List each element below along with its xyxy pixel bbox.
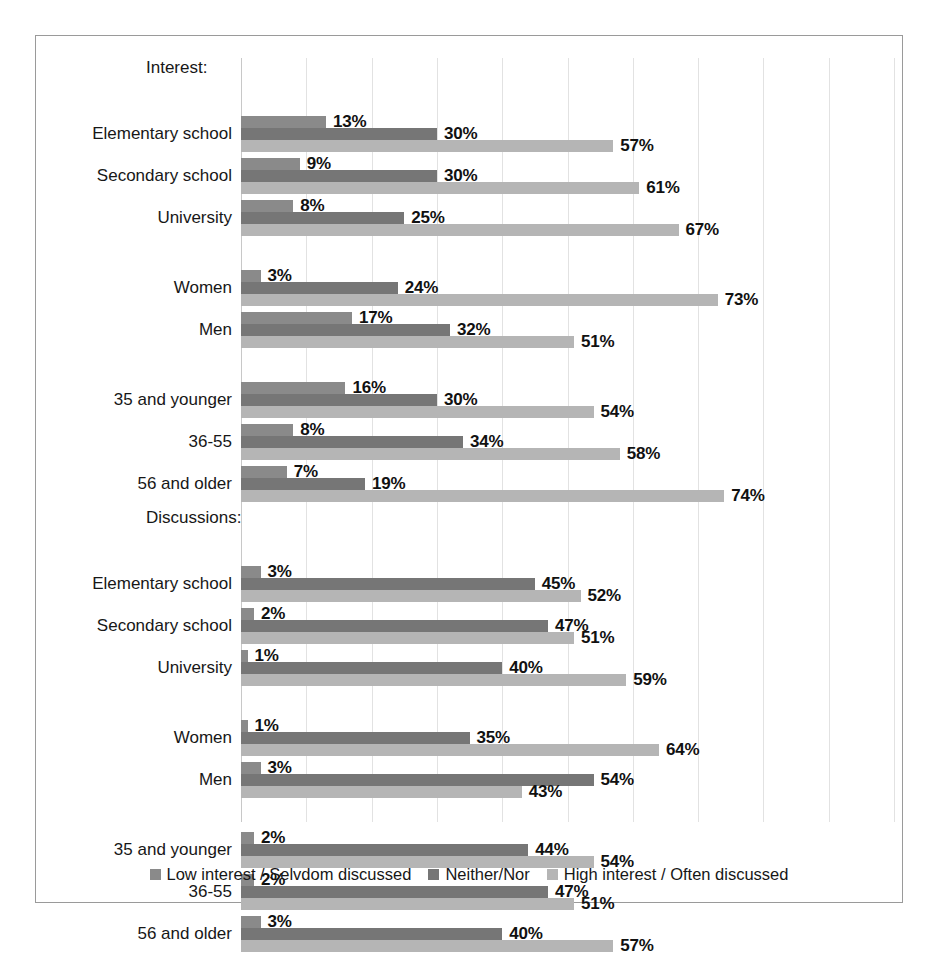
legend-swatch-icon bbox=[428, 869, 439, 880]
bar-1 bbox=[241, 844, 528, 856]
chart-row: 56 and older7%19%74% bbox=[36, 466, 902, 508]
bar-0 bbox=[241, 720, 248, 732]
bar-value-label: 51% bbox=[581, 332, 614, 352]
bar-0 bbox=[241, 382, 345, 394]
bar-2 bbox=[241, 140, 613, 152]
category-label: 36-55 bbox=[36, 432, 232, 452]
bar-1 bbox=[241, 128, 437, 140]
bar-value-label: 58% bbox=[627, 444, 660, 464]
bar-0 bbox=[241, 832, 254, 844]
bar-2 bbox=[241, 406, 594, 418]
bar-value-label: 51% bbox=[581, 628, 614, 648]
chart-legend: Low interest / Selvdom discussedNeither/… bbox=[36, 865, 902, 884]
section-title-1: Discussions: bbox=[36, 508, 236, 528]
bar-group: 16%30%54% bbox=[241, 382, 902, 418]
bar-1 bbox=[241, 732, 470, 744]
bar-1 bbox=[241, 478, 365, 490]
bar-0 bbox=[241, 270, 261, 282]
bar-2 bbox=[241, 448, 620, 460]
bar-1 bbox=[241, 394, 437, 406]
chart-row: Elementary school13%30%57% bbox=[36, 116, 902, 158]
bar-2 bbox=[241, 940, 613, 952]
bar-0 bbox=[241, 158, 300, 170]
chart-row: Secondary school9%30%61% bbox=[36, 158, 902, 200]
bar-2 bbox=[241, 224, 679, 236]
bar-group: 3%45%52% bbox=[241, 566, 902, 602]
bar-2 bbox=[241, 336, 574, 348]
bar-1 bbox=[241, 282, 398, 294]
bar-group: 7%19%74% bbox=[241, 466, 902, 502]
bar-value-label: 57% bbox=[620, 936, 653, 956]
legend-item-1[interactable]: Neither/Nor bbox=[428, 865, 529, 884]
chart-figure: Interest:Elementary school13%30%57%Secon… bbox=[35, 35, 903, 903]
category-label: University bbox=[36, 658, 232, 678]
chart-row: Elementary school3%45%52% bbox=[36, 566, 902, 608]
bar-2 bbox=[241, 182, 639, 194]
bar-2 bbox=[241, 632, 574, 644]
bar-value-label: 73% bbox=[725, 290, 758, 310]
bar-1 bbox=[241, 928, 502, 940]
chart-row: Men3%54%43% bbox=[36, 762, 902, 804]
bar-0 bbox=[241, 116, 326, 128]
chart-row: Secondary school2%47%51% bbox=[36, 608, 902, 650]
bar-1 bbox=[241, 324, 450, 336]
bar-0 bbox=[241, 608, 254, 620]
bar-group: 9%30%61% bbox=[241, 158, 902, 194]
bar-1 bbox=[241, 620, 548, 632]
legend-swatch-icon bbox=[547, 869, 558, 880]
section-title-0: Interest: bbox=[36, 58, 236, 78]
category-label: Elementary school bbox=[36, 124, 232, 144]
bar-0 bbox=[241, 200, 293, 212]
bar-2 bbox=[241, 590, 581, 602]
chart-row: Women1%35%64% bbox=[36, 720, 902, 762]
bar-group: 8%34%58% bbox=[241, 424, 902, 460]
category-label: Men bbox=[36, 320, 232, 340]
bar-0 bbox=[241, 424, 293, 436]
bar-2 bbox=[241, 744, 659, 756]
category-label: Elementary school bbox=[36, 574, 232, 594]
legend-item-0[interactable]: Low interest / Selvdom discussed bbox=[150, 865, 412, 884]
category-label: Women bbox=[36, 278, 232, 298]
legend-item-2[interactable]: High interest / Often discussed bbox=[547, 865, 789, 884]
bar-1 bbox=[241, 212, 404, 224]
bar-2 bbox=[241, 294, 718, 306]
category-label: Secondary school bbox=[36, 166, 232, 186]
bar-2 bbox=[241, 898, 574, 910]
bar-2 bbox=[241, 490, 724, 502]
bar-group: 1%35%64% bbox=[241, 720, 902, 756]
bar-1 bbox=[241, 662, 502, 674]
chart-row: Men17%32%51% bbox=[36, 312, 902, 354]
bar-2 bbox=[241, 674, 626, 686]
bar-value-label: 64% bbox=[666, 740, 699, 760]
bar-group: 8%25%67% bbox=[241, 200, 902, 236]
bar-1 bbox=[241, 436, 463, 448]
category-label: 56 and older bbox=[36, 474, 232, 494]
bar-group: 3%40%57% bbox=[241, 916, 902, 952]
chart-row: 56 and older3%40%57% bbox=[36, 916, 902, 956]
chart-row: 36-558%34%58% bbox=[36, 424, 902, 466]
bar-0 bbox=[241, 762, 261, 774]
bar-group: 17%32%51% bbox=[241, 312, 902, 348]
bar-group: 3%54%43% bbox=[241, 762, 902, 798]
chart-row: University1%40%59% bbox=[36, 650, 902, 692]
bar-group: 3%24%73% bbox=[241, 270, 902, 306]
category-label: Secondary school bbox=[36, 616, 232, 636]
legend-label: Low interest / Selvdom discussed bbox=[167, 865, 412, 884]
chart-rows: Interest:Elementary school13%30%57%Secon… bbox=[36, 58, 902, 822]
bar-1 bbox=[241, 886, 548, 898]
bar-value-label: 67% bbox=[686, 220, 719, 240]
bar-0 bbox=[241, 650, 248, 662]
bar-1 bbox=[241, 578, 535, 590]
chart-row: 35 and younger16%30%54% bbox=[36, 382, 902, 424]
category-label: Men bbox=[36, 770, 232, 790]
bar-value-label: 52% bbox=[588, 586, 621, 606]
legend-label: High interest / Often discussed bbox=[564, 865, 789, 884]
bar-value-label: 74% bbox=[731, 486, 764, 506]
bar-value-label: 59% bbox=[633, 670, 666, 690]
bar-value-label: 51% bbox=[581, 894, 614, 914]
bar-value-label: 54% bbox=[601, 402, 634, 422]
bar-group: 1%40%59% bbox=[241, 650, 902, 686]
bar-value-label: 61% bbox=[646, 178, 679, 198]
bar-group: 13%30%57% bbox=[241, 116, 902, 152]
category-label: University bbox=[36, 208, 232, 228]
